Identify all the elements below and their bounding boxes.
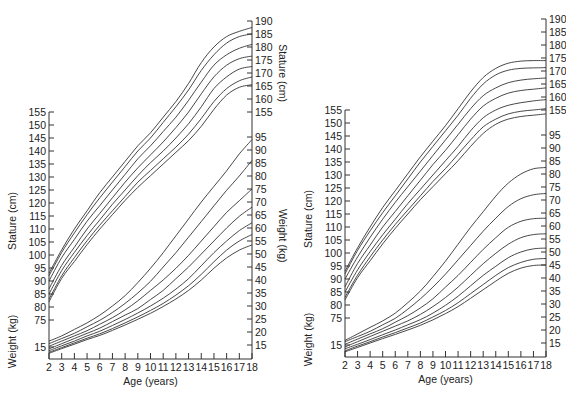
right-weight-tick-label: 85 [549, 155, 561, 167]
left-stature-tick-label: 130 [28, 171, 46, 183]
left-stature-tick-label: 85 [330, 286, 342, 298]
stature-curve-p95 [49, 28, 252, 274]
right-stature-tick-label: 165 [549, 78, 566, 90]
right-stature-tick-label: 190 [255, 15, 273, 27]
right-weight-tick-label: 70 [255, 196, 267, 208]
left-stature-tick-label: 75 [34, 314, 46, 326]
x-tick-label: 10 [440, 359, 452, 371]
stature-curve-p90 [345, 68, 546, 274]
left-stature-tick-label: 125 [324, 182, 342, 194]
x-tick-label: 14 [490, 359, 502, 371]
left-stature-tick-label: 95 [34, 262, 46, 274]
weight-curve-p90 [49, 160, 252, 343]
right-weight-tick-label: 45 [549, 259, 561, 271]
right-stature-tick-label: 175 [255, 54, 273, 66]
left-stature-tick-label: 120 [28, 197, 46, 209]
right-stature-tick-label: 170 [549, 65, 566, 77]
weight-curve-p50 [49, 207, 252, 349]
x-tick-label: 15 [208, 361, 220, 373]
right-weight-tick-label: 60 [255, 222, 267, 234]
right-weight-tick-label: 95 [549, 129, 561, 141]
left-stature-tick-label: 95 [330, 260, 342, 272]
x-tick-label: 5 [380, 359, 386, 371]
x-axis-title: Age (years) [418, 373, 472, 385]
right-weight-tick-label: 55 [549, 233, 561, 245]
stature-curve-p25 [345, 100, 546, 292]
left-stature-tick-label: 80 [330, 299, 342, 311]
right-weight-tick-label: 80 [549, 168, 561, 180]
right-stature-tick-label: 160 [549, 91, 566, 103]
right-stature-axis-title: Stature (cm) [277, 44, 289, 102]
right-weight-tick-label: 20 [549, 324, 561, 336]
x-tick-label: 3 [59, 361, 65, 373]
right-stature-tick-label: 180 [549, 39, 566, 51]
x-tick-label: 6 [97, 361, 103, 373]
x-tick-label: 18 [540, 359, 552, 371]
right-weight-tick-label: 15 [255, 339, 267, 351]
x-tick-label: 2 [46, 361, 52, 373]
right-weight-tick-label: 30 [255, 300, 267, 312]
left-stature-tick-label: 150 [324, 117, 342, 129]
stature-curve-p5 [49, 85, 252, 302]
weight-curve-p5 [345, 265, 546, 352]
right-weight-tick-label: 15 [549, 337, 561, 349]
left-stature-tick-label: 80 [34, 301, 46, 313]
x-tick-label: 13 [477, 359, 489, 371]
right-weight-tick-label: 65 [549, 207, 561, 219]
x-tick-label: 7 [110, 361, 116, 373]
right-stature-tick-label: 155 [549, 104, 566, 116]
right-stature-tick-label: 175 [549, 52, 566, 64]
right-panel: 23456789101112131415161718Age (years)155… [302, 13, 566, 385]
x-tick-label: 13 [183, 361, 195, 373]
right-weight-tick-label: 80 [255, 170, 267, 182]
growth-charts-svg: 23456789101112131415161718Age (years)155… [0, 0, 566, 398]
x-tick-label: 9 [430, 359, 436, 371]
x-tick-label: 8 [122, 361, 128, 373]
left-stature-tick-label: 100 [324, 247, 342, 259]
left-stature-tick-label: 135 [28, 158, 46, 170]
right-weight-tick-label: 35 [549, 285, 561, 297]
x-tick-label: 14 [195, 361, 207, 373]
x-tick-label: 3 [355, 359, 361, 371]
right-weight-tick-label: 70 [549, 194, 561, 206]
right-stature-tick-label: 165 [255, 80, 273, 92]
stature-curve-p10 [49, 77, 252, 299]
stature-curve-p75 [345, 78, 546, 279]
x-tick-label: 18 [246, 361, 258, 373]
x-tick-label: 17 [233, 361, 245, 373]
left-stature-tick-label: 105 [28, 236, 46, 248]
left-stature-tick-label: 90 [34, 275, 46, 287]
x-tick-label: 6 [392, 359, 398, 371]
left-stature-tick-label: 135 [324, 156, 342, 168]
right-weight-tick-label: 35 [255, 287, 267, 299]
right-weight-tick-label: 50 [255, 248, 267, 260]
x-tick-label: 4 [71, 361, 77, 373]
right-weight-tick-label: 90 [549, 142, 561, 154]
x-tick-label: 9 [135, 361, 141, 373]
x-tick-label: 15 [502, 359, 514, 371]
right-weight-tick-label: 40 [549, 272, 561, 284]
left-panel: 23456789101112131415161718Age (years)155… [6, 15, 289, 387]
right-stature-tick-label: 190 [549, 13, 566, 25]
right-stature-tick-label: 185 [549, 26, 566, 38]
left-stature-tick-label: 140 [28, 145, 46, 157]
left-weight-tick-label: 15 [34, 341, 46, 353]
weight-curve-p10 [49, 235, 252, 353]
x-tick-label: 16 [221, 361, 233, 373]
right-stature-tick-label: 170 [255, 67, 273, 79]
left-stature-tick-label: 90 [330, 273, 342, 285]
x-tick-label: 17 [528, 359, 540, 371]
x-tick-label: 11 [453, 359, 464, 371]
right-weight-tick-label: 25 [255, 313, 267, 325]
left-stature-tick-label: 155 [324, 104, 342, 116]
x-tick-label: 2 [342, 359, 348, 371]
x-tick-label: 16 [515, 359, 527, 371]
left-stature-tick-label: 140 [324, 143, 342, 155]
left-stature-tick-label: 120 [324, 195, 342, 207]
right-weight-tick-label: 55 [255, 235, 267, 247]
growth-charts-figure: 23456789101112131415161718Age (years)155… [0, 0, 566, 398]
right-weight-tick-label: 50 [549, 246, 561, 258]
left-stature-tick-label: 115 [325, 208, 342, 220]
right-weight-tick-label: 25 [549, 311, 561, 323]
right-weight-tick-label: 75 [549, 181, 561, 193]
